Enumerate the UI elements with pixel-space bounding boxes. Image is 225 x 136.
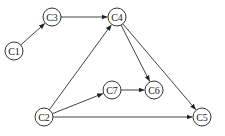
node-label: C1 bbox=[8, 46, 20, 57]
node-label: C2 bbox=[38, 112, 50, 123]
arrow-icon bbox=[21, 23, 45, 45]
node-label: C7 bbox=[106, 85, 118, 96]
edge-c2-to-c7 bbox=[52, 94, 103, 114]
edge-c2-to-c4 bbox=[49, 25, 111, 110]
arrow-icon bbox=[49, 25, 111, 110]
edges-layer bbox=[21, 17, 196, 117]
node-label: C4 bbox=[111, 12, 123, 23]
arrow-icon bbox=[121, 25, 150, 81]
nodes-layer: C1C3C4C7C6C2C5 bbox=[5, 8, 211, 126]
node-label: C6 bbox=[148, 85, 160, 96]
node-c1: C1 bbox=[5, 42, 23, 60]
node-label: C5 bbox=[196, 112, 208, 123]
node-c7: C7 bbox=[103, 81, 121, 99]
node-c2: C2 bbox=[35, 108, 53, 126]
graph-canvas: C1C3C4C7C6C2C5 bbox=[0, 0, 225, 136]
node-c6: C6 bbox=[145, 81, 163, 99]
node-label: C3 bbox=[46, 12, 58, 23]
edge-c4-to-c6 bbox=[121, 25, 150, 81]
node-c4: C4 bbox=[108, 8, 126, 26]
node-c5: C5 bbox=[193, 108, 211, 126]
node-c3: C3 bbox=[43, 8, 61, 26]
edge-c1-to-c3 bbox=[21, 23, 45, 45]
arrow-icon bbox=[52, 94, 103, 114]
